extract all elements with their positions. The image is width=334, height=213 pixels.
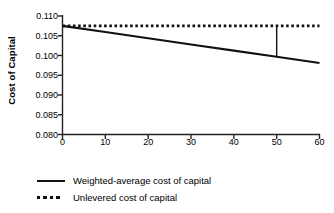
legend-item-label: Unlevered cost of capital xyxy=(73,192,177,203)
axis-spines xyxy=(62,15,320,135)
chart-legend: Weighted-average cost of capitalUnlevere… xyxy=(36,172,326,206)
series-line-weighted-average-cost-of-capital xyxy=(63,26,320,63)
legend-item[interactable]: Weighted-average cost of capital xyxy=(36,172,326,189)
solid-line-swatch-icon xyxy=(36,176,66,186)
cost-of-capital-chart: Cost of Capital 0.0800.0850.0900.0950.10… xyxy=(0,0,334,213)
legend-item[interactable]: Unlevered cost of capital xyxy=(36,189,326,206)
legend-item-label: Weighted-average cost of capital xyxy=(73,175,211,186)
dotted-line-swatch-icon xyxy=(36,193,66,203)
